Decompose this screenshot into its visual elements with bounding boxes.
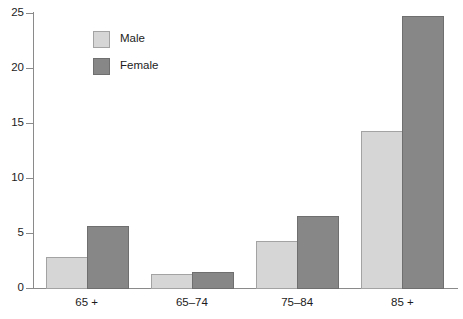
bars-layer bbox=[0, 0, 463, 319]
bar-female-2 bbox=[297, 216, 339, 289]
legend-item-male: Male bbox=[93, 28, 158, 50]
x-axis-label-1: 65–74 bbox=[142, 297, 242, 309]
legend-swatch-female-icon bbox=[93, 58, 110, 75]
legend-swatch-male-icon bbox=[93, 31, 110, 48]
bar-male-2 bbox=[256, 241, 298, 289]
legend-item-female: Female bbox=[93, 55, 158, 77]
legend-label-male: Male bbox=[120, 33, 145, 45]
bar-female-1 bbox=[192, 272, 234, 289]
bar-female-3 bbox=[402, 16, 444, 289]
x-axis-label-3: 85 + bbox=[352, 297, 452, 309]
legend-label-female: Female bbox=[120, 60, 158, 72]
x-axis-label-2: 75–84 bbox=[247, 297, 347, 309]
bar-male-1 bbox=[151, 274, 193, 289]
bar-male-0 bbox=[46, 257, 88, 289]
bar-chart: 0510152025 65 +65–7475–8485 + Male Femal… bbox=[0, 0, 463, 319]
bar-female-0 bbox=[87, 226, 129, 289]
bar-male-3 bbox=[361, 131, 403, 289]
legend: Male Female bbox=[93, 28, 158, 82]
x-axis-label-0: 65 + bbox=[37, 297, 137, 309]
